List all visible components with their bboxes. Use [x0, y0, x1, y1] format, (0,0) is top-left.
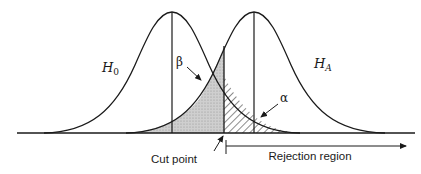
ha-curve — [126, 12, 385, 133]
alpha-pointer-arrow — [261, 104, 278, 117]
beta-label: β — [176, 55, 183, 69]
alpha-label: α — [280, 91, 288, 105]
alpha-region — [224, 76, 305, 133]
cut-point-pointer-arrow — [214, 136, 223, 151]
hypothesis-test-diagram: H0 HA β α Cut point Rejection region — [0, 0, 421, 174]
h0-label: H0 — [101, 60, 119, 77]
beta-pointer-arrow — [187, 67, 201, 80]
cut-point-label: Cut point — [151, 153, 198, 165]
rejection-region-label: Rejection region — [268, 150, 351, 162]
ha-label: HA — [313, 56, 332, 73]
